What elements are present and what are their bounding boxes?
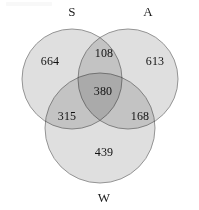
- region-count-w-only: 439: [95, 145, 113, 159]
- set-label-w: W: [98, 190, 111, 205]
- set-label-s: S: [68, 4, 75, 19]
- region-count-s-and-a: 108: [95, 46, 113, 60]
- region-count-s-only: 664: [41, 54, 59, 68]
- region-count-a-only: 613: [146, 54, 164, 68]
- venn-diagram-figure: S A W 664 108 613 380 315 168 439: [0, 0, 199, 210]
- set-label-a: A: [143, 4, 153, 19]
- region-count-s-and-w: 315: [58, 109, 76, 123]
- region-count-s-and-a-and-w: 380: [94, 84, 112, 98]
- region-count-a-and-w: 168: [131, 109, 149, 123]
- venn-diagram-canvas: S A W 664 108 613 380 315 168 439: [0, 0, 199, 210]
